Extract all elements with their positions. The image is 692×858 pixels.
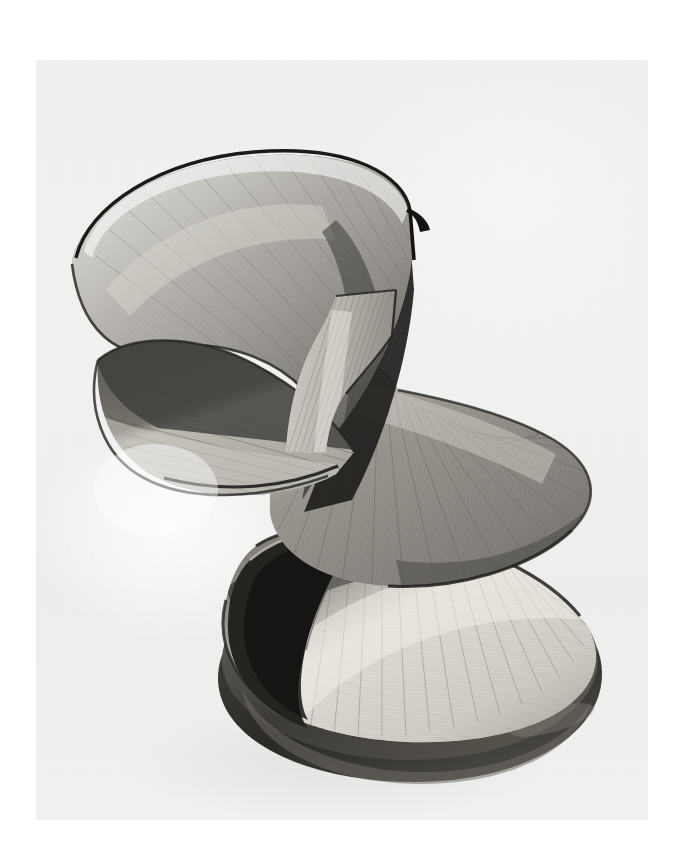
page-canvas [0, 0, 692, 858]
sculpture-illustration [36, 60, 648, 820]
caption-zone [36, 782, 648, 820]
backdrop-reflection-patch [94, 444, 218, 536]
photograph [36, 60, 648, 820]
